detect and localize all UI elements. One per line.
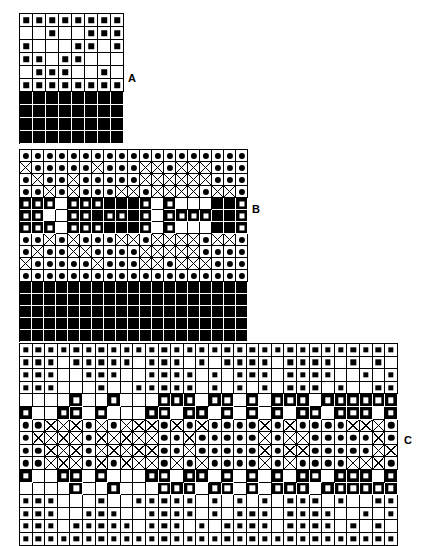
pattern-cell [111,92,124,105]
pattern-cell [32,282,44,294]
pattern-cell [32,186,44,198]
pattern-cell [385,445,398,458]
pattern-cell [133,420,146,433]
pattern-cell [200,198,212,210]
pattern-cell [171,394,184,407]
pattern-cell [80,330,92,342]
pattern-cell [184,394,197,407]
pattern-cell [70,394,83,407]
pattern-cell [234,457,247,470]
pattern-cell [297,344,310,357]
pattern-cell [360,508,373,521]
pattern-cell [128,234,140,246]
pattern-cell [347,344,360,357]
pattern-cell [20,53,33,66]
pattern-cell [46,66,59,79]
pattern-cell [284,357,297,370]
pattern-cell [104,198,116,210]
pattern-cell [83,445,96,458]
pattern-cell [133,394,146,407]
pattern-cell [104,258,116,270]
pattern-cell [58,445,71,458]
pattern-cell [164,210,176,222]
pattern-cell [347,357,360,370]
pattern-cell [20,92,33,105]
pattern-cell [347,407,360,420]
pattern-panel-a [19,13,124,144]
pattern-cell [72,79,85,92]
pattern-cell [70,508,83,521]
pattern-cell [159,470,172,483]
pattern-cell [159,495,172,508]
pattern-cell [222,407,235,420]
pattern-cell [247,445,260,458]
pattern-cell [20,306,32,318]
pattern-cell [385,495,398,508]
pattern-cell [176,150,188,162]
pattern-cell [140,186,152,198]
pattern-cell [188,198,200,210]
pattern-cell [20,105,33,118]
pattern-cell [196,533,209,546]
pattern-cell [121,407,134,420]
pattern-cell [284,369,297,382]
pattern-cell [373,457,386,470]
pattern-cell [46,14,59,27]
pattern-cell [33,457,46,470]
pattern-cell [96,495,109,508]
pattern-cell [96,344,109,357]
pattern-cell [83,483,96,496]
pattern-cell [176,222,188,234]
pattern-cell [104,150,116,162]
pattern-cell [310,520,323,533]
pattern-cell [128,318,140,330]
pattern-cell [310,357,323,370]
pattern-cell [272,470,285,483]
pattern-cell [347,470,360,483]
pattern-cell [188,150,200,162]
pattern-cell [373,445,386,458]
pattern-cell [209,344,222,357]
pattern-cell [200,282,212,294]
pattern-cell [234,445,247,458]
pattern-cell [310,394,323,407]
pattern-cell [224,330,236,342]
pattern-cell [121,520,134,533]
pattern-cell [121,508,134,521]
pattern-cell [184,520,197,533]
pattern-cell [56,186,68,198]
pattern-cell [360,495,373,508]
pattern-cell [116,330,128,342]
pattern-cell [310,369,323,382]
pattern-cell [85,105,98,118]
pattern-cell [310,470,323,483]
pattern-cell [98,14,111,27]
pattern-cell [236,210,248,222]
pattern-cell [68,234,80,246]
pattern-cell [212,306,224,318]
pattern-cell [80,318,92,330]
pattern-cell [20,246,32,258]
pattern-cell [45,483,58,496]
pattern-cell [83,357,96,370]
pattern-cell [259,520,272,533]
pattern-cell [188,294,200,306]
pattern-cell [33,105,46,118]
pattern-cell [121,420,134,433]
pattern-cell [200,150,212,162]
pattern-cell [70,445,83,458]
pattern-cell [85,118,98,131]
pattern-cell [85,40,98,53]
pattern-cell [83,533,96,546]
pattern-cell [58,432,71,445]
pattern-cell [98,53,111,66]
pattern-cell [171,470,184,483]
pattern-cell [116,282,128,294]
pattern-cell [20,198,32,210]
pattern-cell [234,533,247,546]
pattern-cell [234,508,247,521]
pattern-cell [116,198,128,210]
pattern-cell [164,174,176,186]
pattern-cell [68,294,80,306]
pattern-cell [171,432,184,445]
